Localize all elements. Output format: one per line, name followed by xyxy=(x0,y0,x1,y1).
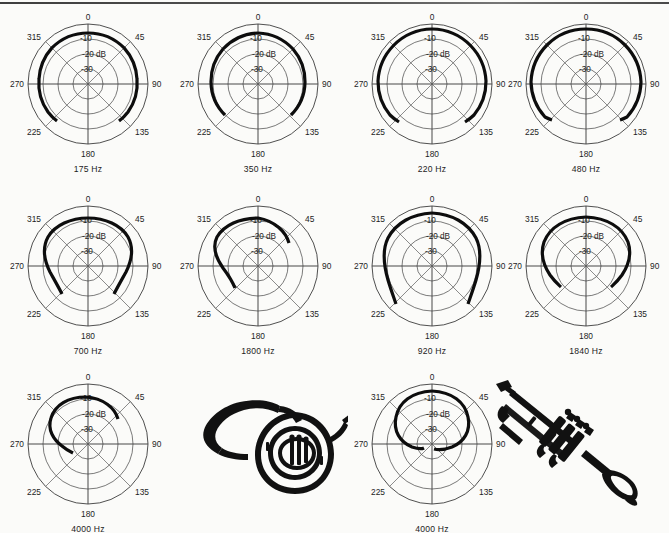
polar-chart-svg: -10 -20 dB -30 0 45 90 135 180 225 270 3… xyxy=(178,6,338,166)
svg-text:315: 315 xyxy=(197,214,211,224)
svg-text:180: 180 xyxy=(425,509,439,519)
polar-chart-svg: -10 -20 dB -30 0 45 90 135 180 225 270 3… xyxy=(8,6,168,166)
svg-text:135: 135 xyxy=(479,309,493,319)
svg-text:-20 dB: -20 dB xyxy=(580,232,605,241)
svg-text:0: 0 xyxy=(256,12,261,22)
svg-text:225: 225 xyxy=(197,309,211,319)
svg-text:225: 225 xyxy=(371,487,385,497)
svg-text:-30: -30 xyxy=(425,425,437,434)
svg-text:270: 270 xyxy=(10,439,24,449)
polar-chart-svg: -10 -20 dB -30 0 45 90 135 180 225 270 3… xyxy=(352,366,512,526)
polar-plot-horn-1800: -10 -20 dB -30 0 45 90 135 180 225 270 3… xyxy=(178,188,338,356)
svg-text:270: 270 xyxy=(508,79,522,89)
svg-text:225: 225 xyxy=(27,487,41,497)
frequency-label: 175 Hz xyxy=(8,164,168,174)
svg-text:-20 dB: -20 dB xyxy=(252,232,277,241)
polar-chart-svg: -10 -20 dB -30 0 45 90 135 180 225 270 3… xyxy=(352,6,512,166)
svg-text:270: 270 xyxy=(354,79,368,89)
svg-text:270: 270 xyxy=(10,79,24,89)
svg-text:45: 45 xyxy=(479,214,489,224)
trumpet-drawing xyxy=(490,378,640,508)
svg-text:-20 dB: -20 dB xyxy=(252,50,277,59)
svg-text:-30: -30 xyxy=(81,247,93,256)
svg-text:90: 90 xyxy=(322,79,332,89)
frequency-label: 220 Hz xyxy=(352,164,512,174)
polar-chart-svg: -10 -20 dB -30 0 45 90 135 180 225 270 3… xyxy=(506,6,666,166)
svg-text:135: 135 xyxy=(633,127,647,137)
svg-text:180: 180 xyxy=(579,149,593,159)
svg-text:0: 0 xyxy=(86,12,91,22)
svg-text:-30: -30 xyxy=(81,65,93,74)
frequency-label: 1840 Hz xyxy=(506,346,666,356)
svg-text:180: 180 xyxy=(81,149,95,159)
frequency-label: 4000 Hz xyxy=(8,524,168,533)
svg-text:-10: -10 xyxy=(424,216,436,225)
polar-chart-svg: -10 -20 dB -30 0 45 90 135 180 225 270 3… xyxy=(352,188,512,348)
svg-text:315: 315 xyxy=(27,392,41,402)
svg-text:-30: -30 xyxy=(579,65,591,74)
svg-text:-20 dB: -20 dB xyxy=(82,50,107,59)
svg-text:90: 90 xyxy=(496,261,506,271)
svg-text:90: 90 xyxy=(152,79,162,89)
polar-plot-horn-350: -10 -20 dB -30 0 45 90 135 180 225 270 3… xyxy=(178,6,338,174)
svg-text:-20 dB: -20 dB xyxy=(426,410,451,419)
svg-text:270: 270 xyxy=(180,261,194,271)
scan-artifact-rule xyxy=(0,2,669,4)
svg-text:315: 315 xyxy=(27,32,41,42)
svg-text:135: 135 xyxy=(135,487,149,497)
svg-text:-20 dB: -20 dB xyxy=(426,232,451,241)
svg-text:45: 45 xyxy=(135,32,145,42)
svg-text:135: 135 xyxy=(305,127,319,137)
svg-text:270: 270 xyxy=(354,439,368,449)
svg-text:270: 270 xyxy=(354,261,368,271)
svg-text:0: 0 xyxy=(256,194,261,204)
polar-plot-horn-4000: -10 -20 dB -30 0 45 90 135 180 225 270 3… xyxy=(8,366,168,533)
svg-text:135: 135 xyxy=(135,127,149,137)
svg-text:315: 315 xyxy=(371,214,385,224)
svg-text:270: 270 xyxy=(180,79,194,89)
svg-text:135: 135 xyxy=(479,127,493,137)
polar-chart-svg: -10 -20 dB -30 0 45 90 135 180 225 270 3… xyxy=(178,188,338,348)
trumpet-illustration xyxy=(490,378,640,508)
svg-text:0: 0 xyxy=(584,12,589,22)
svg-text:180: 180 xyxy=(251,149,265,159)
svg-text:315: 315 xyxy=(197,32,211,42)
svg-text:180: 180 xyxy=(579,331,593,341)
svg-text:90: 90 xyxy=(152,439,162,449)
frequency-label: 480 Hz xyxy=(506,164,666,174)
french-horn-drawing xyxy=(198,382,348,507)
polar-plot-horn-700: -10 -20 dB -30 0 45 90 135 180 225 270 3… xyxy=(8,188,168,356)
svg-text:315: 315 xyxy=(371,32,385,42)
frequency-label: 1800 Hz xyxy=(178,346,338,356)
svg-text:45: 45 xyxy=(305,32,315,42)
svg-text:90: 90 xyxy=(322,261,332,271)
svg-text:45: 45 xyxy=(479,392,489,402)
svg-text:225: 225 xyxy=(27,127,41,137)
svg-text:45: 45 xyxy=(633,214,643,224)
svg-text:225: 225 xyxy=(27,309,41,319)
svg-text:-30: -30 xyxy=(425,65,437,74)
svg-text:225: 225 xyxy=(197,127,211,137)
svg-text:135: 135 xyxy=(633,309,647,319)
svg-text:315: 315 xyxy=(525,32,539,42)
svg-text:0: 0 xyxy=(86,372,91,382)
svg-text:0: 0 xyxy=(86,194,91,204)
svg-text:-20 dB: -20 dB xyxy=(82,410,107,419)
frequency-label: 920 Hz xyxy=(352,346,512,356)
frequency-label: 350 Hz xyxy=(178,164,338,174)
svg-text:225: 225 xyxy=(525,309,539,319)
svg-text:180: 180 xyxy=(81,509,95,519)
svg-text:45: 45 xyxy=(305,214,315,224)
svg-text:-30: -30 xyxy=(251,247,263,256)
svg-text:-30: -30 xyxy=(251,65,263,74)
svg-text:225: 225 xyxy=(371,309,385,319)
svg-text:135: 135 xyxy=(135,309,149,319)
polar-chart-svg: -10 -20 dB -30 0 45 90 135 180 225 270 3… xyxy=(8,366,168,526)
svg-text:-10: -10 xyxy=(578,34,590,43)
svg-text:-30: -30 xyxy=(579,247,591,256)
svg-text:-30: -30 xyxy=(425,247,437,256)
svg-text:45: 45 xyxy=(479,32,489,42)
polar-plot-trumpet-220: -10 -20 dB -30 0 45 90 135 180 225 270 3… xyxy=(352,6,512,174)
svg-text:180: 180 xyxy=(251,331,265,341)
polar-plot-trumpet-920: -10 -20 dB -30 0 45 90 135 180 225 270 3… xyxy=(352,188,512,356)
